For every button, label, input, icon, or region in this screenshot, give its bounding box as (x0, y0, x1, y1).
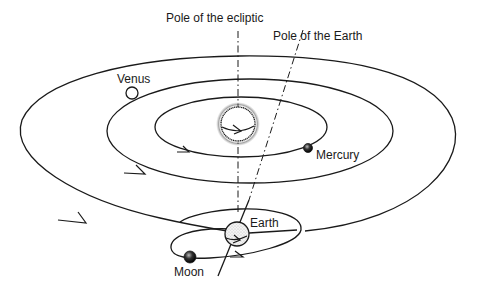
earth-body (225, 222, 249, 246)
mercury-body (304, 144, 313, 153)
label-pole-earth: Pole of the Earth (273, 29, 362, 43)
sun (216, 102, 260, 146)
label-venus: Venus (117, 72, 150, 86)
label-moon: Moon (174, 265, 204, 279)
venus-body (126, 87, 138, 99)
label-earth: Earth (250, 216, 279, 230)
earth-orbit-arrow-icon (58, 212, 86, 223)
moon-body (184, 251, 196, 263)
earth (225, 222, 249, 246)
label-pole-ecliptic: Pole of the ecliptic (166, 11, 263, 25)
earth-orbit-segment (249, 230, 297, 233)
label-mercury: Mercury (316, 148, 359, 162)
venus-orbit-arrow-icon (124, 165, 145, 174)
orbit-diagram: Pole of the ecliptic Pole of the Earth V… (0, 0, 479, 293)
